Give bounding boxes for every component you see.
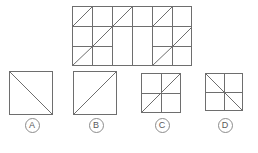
option-c-figure[interactable] [140,70,184,116]
option-d-label-wrap: D [204,116,246,134]
main-pattern-figure [0,0,258,70]
option-c-label[interactable]: C [155,118,170,133]
option-b-label-wrap: B [72,116,120,134]
option-a-figure[interactable] [8,70,56,116]
option-a-label-wrap: A [8,116,56,134]
main-pattern-grid [73,7,192,66]
option-d-figure[interactable] [204,70,246,116]
option-b-figure[interactable] [72,70,120,116]
option-c-label-wrap: C [140,116,184,134]
option-a-label[interactable]: A [25,118,40,133]
puzzle-root: A B C D [0,0,258,153]
option-b-label[interactable]: B [89,118,104,133]
option-d-label[interactable]: D [218,118,233,133]
